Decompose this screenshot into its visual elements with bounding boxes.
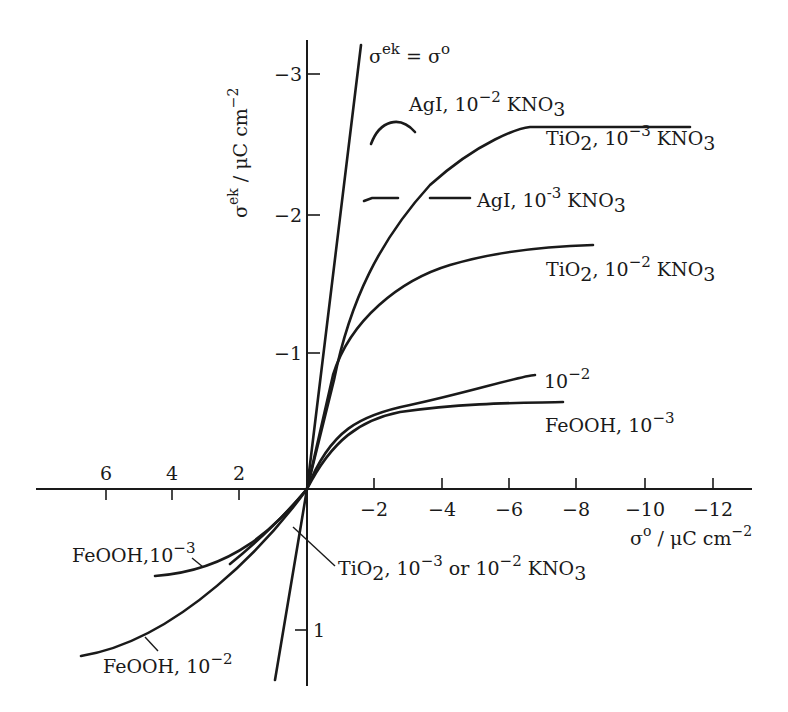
svg-text:−8: −8 xyxy=(562,498,590,520)
label-feooh-1e-2-upper: 10−2 xyxy=(544,365,590,392)
label-tio2-lower: TiO2, 10−3 or 10−2 KNO3 xyxy=(338,552,586,584)
y-tick-labels: −3 −2 −1 1 xyxy=(274,63,325,641)
svg-text:−10: −10 xyxy=(625,498,665,520)
svg-text:−2: −2 xyxy=(274,204,302,226)
label-tio2-1e-2: TiO2, 10−2 KNO3 xyxy=(546,253,715,285)
annotations: σek = σo AgI, 10−2 KNO3 TiO2, 10−3 KNO3 … xyxy=(72,40,715,677)
curve-feooh-1e-3-upper xyxy=(307,402,563,489)
svg-text:−6: −6 xyxy=(495,498,523,520)
svg-text:2: 2 xyxy=(233,462,245,484)
svg-text:−2: −2 xyxy=(360,498,388,520)
svg-text:−1: −1 xyxy=(274,342,302,364)
x-axis-title: σo / μC cm−2 xyxy=(630,523,752,549)
curve-tio2-1e-2 xyxy=(307,245,593,489)
x-tick-labels: 6 4 2 −2 −4 −6 −8 −10 −12 xyxy=(100,462,733,520)
label-feooh-1e-3-lower: FeOOH,10−3 xyxy=(72,539,195,566)
svg-text:−4: −4 xyxy=(428,498,456,520)
label-feooh-1e-2-lower: FeOOH, 10−2 xyxy=(103,650,233,677)
chart: 6 4 2 −2 −4 −6 −8 −10 −12 −3 −2 −1 1 xyxy=(0,0,788,712)
curve-feooh-1e-2-lower xyxy=(81,489,307,656)
svg-text:4: 4 xyxy=(166,462,178,484)
curve-agi-1e-2 xyxy=(371,122,415,144)
svg-text:1: 1 xyxy=(313,619,325,641)
curve-feooh-1e-2-upper xyxy=(307,375,535,489)
svg-text:−3: −3 xyxy=(274,63,302,85)
svg-text:6: 6 xyxy=(100,462,112,484)
label-tio2-1e-3: TiO2, 10−3 KNO3 xyxy=(546,122,715,154)
label-feooh-1e-3-upper: FeOOH, 10−3 xyxy=(545,409,675,436)
label-identity: σek = σo xyxy=(369,40,450,67)
label-agi-1e-3: AgI, 10-3 KNO3 xyxy=(476,184,626,216)
label-agi-1e-2: AgI, 10−2 KNO3 xyxy=(408,88,565,120)
y-axis-title: σek / μC cm−2 xyxy=(225,88,251,218)
svg-text:−12: −12 xyxy=(693,498,733,520)
